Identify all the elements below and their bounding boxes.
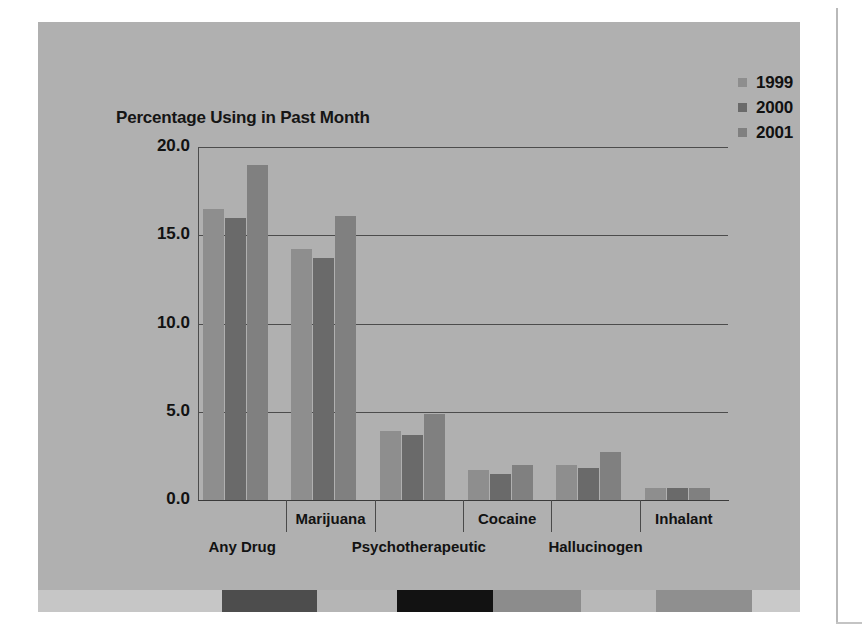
bar-inhalant-2001: [689, 488, 710, 500]
y-axis-labels: 20.015.010.05.00.0: [116, 147, 190, 500]
x-axis-separator: [551, 500, 552, 532]
x-axis-separator: [375, 500, 376, 532]
page-border-rule: [836, 8, 838, 624]
bar-marijuana-1999: [291, 249, 312, 500]
color-strip-segment: [397, 590, 493, 612]
bar-hallucinogen-1999: [556, 465, 577, 500]
bar-marijuana-2000: [313, 258, 334, 500]
bar-psychotherapeutic-2001: [424, 414, 445, 500]
x-axis-separator: [640, 500, 641, 532]
bar-inhalant-2000: [667, 488, 688, 500]
bar-cocaine-2001: [512, 465, 533, 500]
legend-label: 2000: [756, 98, 793, 118]
x-axis-label-hallucinogen: Hallucinogen: [548, 538, 642, 555]
y-tick-label: 20.0: [120, 136, 190, 156]
color-strip-segment: [222, 590, 318, 612]
color-strip-segment: [752, 590, 800, 612]
legend-item-2000: 2000: [738, 95, 830, 120]
bar-hallucinogen-2000: [578, 468, 599, 500]
decorative-color-strip: [38, 590, 800, 612]
legend-label: 2001: [756, 123, 793, 143]
bar-marijuana-2001: [335, 216, 356, 500]
legend-item-2001: 2001: [738, 120, 830, 145]
bar-psychotherapeutic-1999: [380, 431, 401, 500]
bar-cocaine-2000: [490, 474, 511, 500]
legend-label: 1999: [756, 73, 793, 93]
gridline: [198, 147, 728, 148]
x-axis-separator: [463, 500, 464, 532]
x-axis-label-any-drug: Any Drug: [208, 538, 276, 555]
bar-any-drug-2001: [247, 165, 268, 500]
x-axis-label-psychotherapeutic: Psychotherapeutic: [352, 538, 486, 555]
scanned-page: Percentage Using in Past Month 20.015.01…: [0, 0, 864, 642]
color-strip-segment: [493, 590, 581, 612]
legend-swatch-icon: [738, 103, 747, 112]
bar-inhalant-1999: [645, 488, 666, 500]
color-strip-segment: [317, 590, 397, 612]
bar-hallucinogen-2001: [600, 452, 621, 500]
bar-psychotherapeutic-2000: [402, 435, 423, 500]
gridline: [198, 324, 728, 325]
chart-legend: 199920002001: [738, 70, 830, 145]
x-axis-label-marijuana: Marijuana: [295, 510, 365, 527]
x-axis-label-inhalant: Inhalant: [655, 510, 713, 527]
y-tick-label: 0.0: [120, 489, 190, 509]
legend-item-1999: 1999: [738, 70, 830, 95]
y-tick-label: 15.0: [120, 224, 190, 244]
bar-cocaine-1999: [468, 470, 489, 500]
legend-swatch-icon: [738, 128, 747, 137]
gridline: [198, 235, 728, 236]
gridline: [198, 412, 728, 413]
x-axis-label-cocaine: Cocaine: [478, 510, 536, 527]
color-strip-segment: [581, 590, 657, 612]
chart-figure: Percentage Using in Past Month 20.015.01…: [38, 22, 800, 590]
color-strip-segment: [656, 590, 752, 612]
chart-title: Percentage Using in Past Month: [116, 108, 370, 128]
color-strip-segment: [38, 590, 222, 612]
bars-layer: [198, 147, 728, 500]
legend-swatch-icon: [738, 78, 747, 87]
page-border-rule-foot: [836, 622, 862, 624]
y-tick-label: 5.0: [120, 401, 190, 421]
y-tick-label: 10.0: [120, 313, 190, 333]
x-axis-separator: [286, 500, 287, 532]
bar-any-drug-2000: [225, 218, 246, 500]
bar-any-drug-1999: [203, 209, 224, 500]
